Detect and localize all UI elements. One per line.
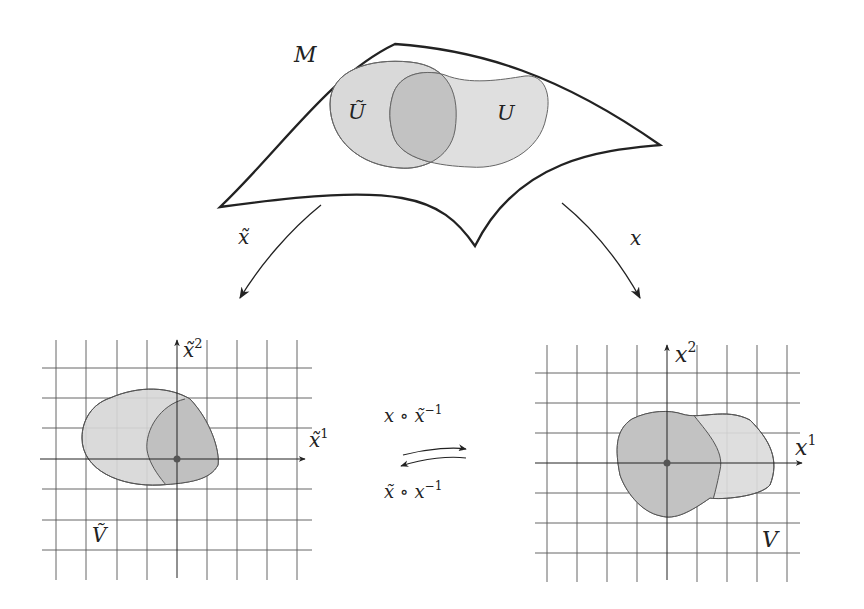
- map-arrow-left: [240, 205, 321, 298]
- manifold-M: M Ũ U: [220, 42, 660, 246]
- right-axis-x2-label: x2: [675, 339, 696, 367]
- transition-forward-arrow: [403, 448, 466, 455]
- set-U-label: U: [497, 101, 516, 125]
- manifold-label: M: [293, 42, 317, 67]
- left-axis-x2-label: x̃2: [183, 336, 203, 362]
- left-chart: x̃2 x̃1 Ṽ: [40, 336, 329, 580]
- diagram-canvas: M Ũ U x̃ x x̃2 x̃1 Ṽ x2 x1 V x ∘ x̃−1: [0, 0, 864, 609]
- transition-maps: x ∘ x̃−1 x̃ ∘ x−1: [384, 403, 466, 502]
- map-label-left: x̃: [238, 225, 250, 249]
- left-origin-point: [174, 456, 181, 463]
- set-U-tilde-label: Ũ: [348, 100, 367, 124]
- region-V-tilde-label: Ṽ: [92, 523, 109, 547]
- transition-forward-label: x ∘ x̃−1: [384, 403, 442, 426]
- right-chart: x2 x1 V: [535, 339, 816, 582]
- transition-backward-label: x̃ ∘ x−1: [384, 479, 442, 502]
- region-V-label: V: [762, 527, 780, 552]
- manifold-charts-diagram: M Ũ U x̃ x x̃2 x̃1 Ṽ x2 x1 V x ∘ x̃−1: [0, 0, 864, 609]
- map-label-right: x: [630, 226, 641, 250]
- right-axis-x1-label: x1: [795, 432, 816, 460]
- transition-backward-arrow: [401, 457, 466, 466]
- map-arrow-right: [562, 203, 640, 298]
- right-origin-point: [664, 460, 671, 467]
- left-axis-x1-label: x̃1: [309, 426, 329, 452]
